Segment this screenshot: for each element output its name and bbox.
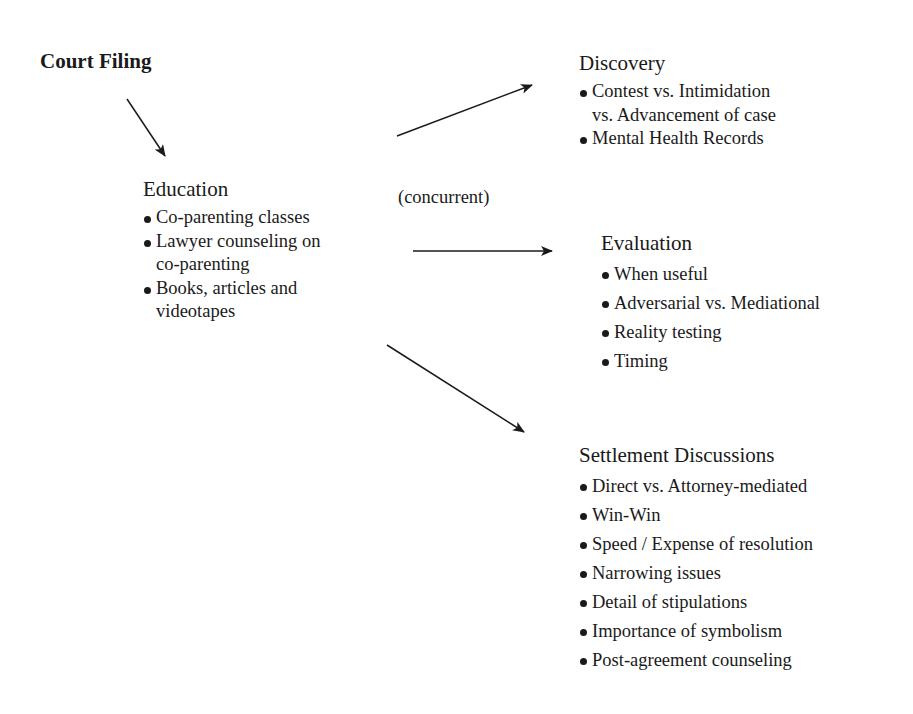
arrow-filing-to-education [127,99,165,156]
item-text: Mental Health Records [592,128,764,148]
list-item: Importance of symbolism [579,617,813,646]
discovery-title: Discovery [579,50,776,76]
node-evaluation: Evaluation When useful Adversarial vs. M… [601,230,820,376]
list-item: Win-Win [579,501,813,530]
list-item: Narrowing issues [579,559,813,588]
list-item: Detail of stipulations [579,588,813,617]
list-item: Mental Health Records [579,127,776,151]
arrow-education-to-discovery [397,85,532,136]
list-item: Books, articles andvideotapes [143,277,320,324]
list-item: Timing [601,347,820,376]
concurrent-text: (concurrent) [398,186,489,209]
list-item: Contest vs. Intimidationvs. Advancement … [579,80,776,127]
education-list: Co-parenting classes Lawyer counseling o… [143,206,320,324]
education-title: Education [143,176,320,202]
evaluation-list: When useful Adversarial vs. Mediational … [601,260,820,376]
concurrent-label: (concurrent) [398,186,489,209]
discovery-list: Contest vs. Intimidationvs. Advancement … [579,80,776,151]
settlement-title: Settlement Discussions [579,442,813,468]
node-discovery: Discovery Contest vs. Intimidationvs. Ad… [579,50,776,151]
item-text: Books, articles and [156,278,297,298]
court-filing-title: Court Filing [40,48,151,74]
node-settlement: Settlement Discussions Direct vs. Attorn… [579,442,813,675]
arrow-education-to-settlement [387,345,524,432]
list-item: Lawyer counseling onco-parenting [143,230,320,277]
list-item: Speed / Expense of resolution [579,530,813,559]
list-item: Adversarial vs. Mediational [601,289,820,318]
list-item: Direct vs. Attorney-mediated [579,472,813,501]
item-text: Lawyer counseling on [156,231,320,251]
node-education: Education Co-parenting classes Lawyer co… [143,176,320,324]
evaluation-title: Evaluation [601,230,820,256]
item-text: Co-parenting classes [156,207,310,227]
list-item: Reality testing [601,318,820,347]
list-item: Post-agreement counseling [579,646,813,675]
list-item: Co-parenting classes [143,206,320,230]
node-court-filing: Court Filing [40,48,151,74]
item-text: Contest vs. Intimidation [592,81,770,101]
list-item: When useful [601,260,820,289]
item-text-cont: videotapes [156,300,320,324]
item-text-cont: vs. Advancement of case [592,104,776,128]
settlement-list: Direct vs. Attorney-mediated Win-Win Spe… [579,472,813,675]
item-text-cont: co-parenting [156,253,320,277]
